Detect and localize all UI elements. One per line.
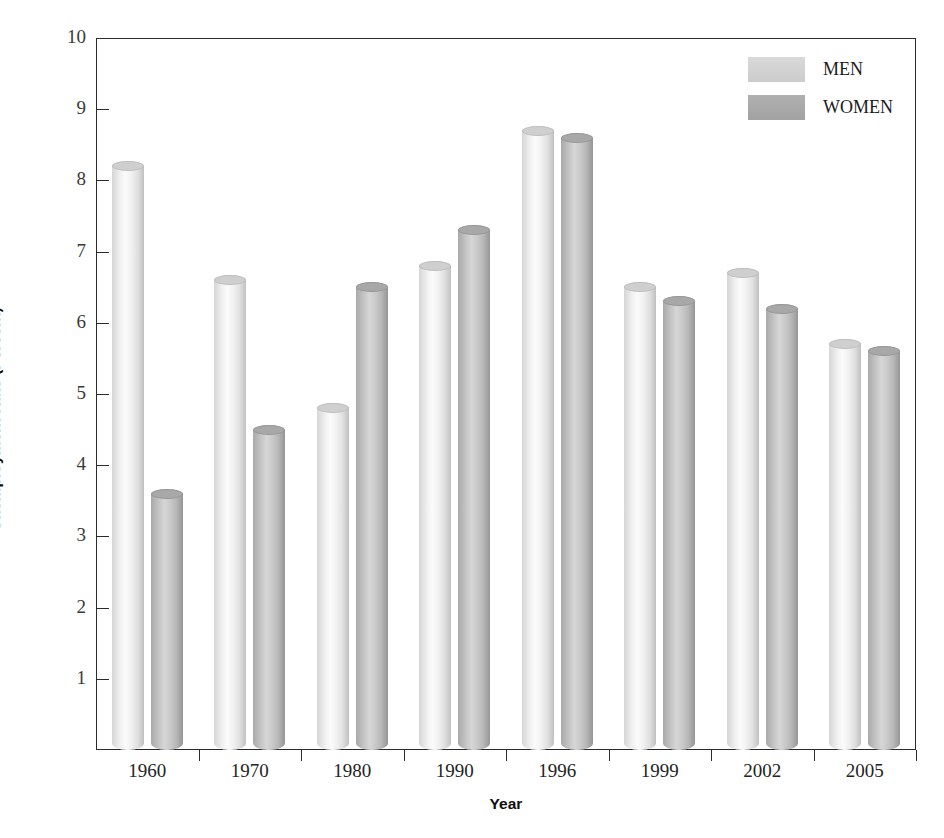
bar-body — [522, 131, 554, 750]
bar-men-1960 — [112, 166, 144, 750]
bar-body — [624, 287, 656, 750]
bar-women-1999 — [663, 301, 695, 750]
bar-women-1990 — [458, 230, 490, 750]
bar-body — [663, 301, 695, 750]
legend-label-men: MEN — [823, 59, 863, 80]
bar-body — [727, 273, 759, 750]
y-axis-tick-label: 4 — [0, 453, 86, 475]
bar-top-ellipse — [727, 268, 759, 278]
y-axis-tick — [96, 608, 109, 609]
y-axis-title-label: Unemployment Rate (Percent) — [0, 307, 4, 531]
y-axis-tick-label: 5 — [0, 382, 86, 404]
bar-women-1960 — [151, 494, 183, 750]
bar-body — [151, 494, 183, 750]
bar-women-1970 — [253, 430, 285, 750]
x-axis-title: Year — [96, 795, 916, 813]
bar-body — [766, 309, 798, 750]
bar-men-1999 — [624, 287, 656, 750]
y-axis-tick-label: 6 — [0, 311, 86, 333]
y-axis-tick — [96, 252, 109, 253]
bar-body — [356, 287, 388, 750]
y-axis-title: Unemployment Rate (Percent) — [34, 0, 68, 838]
bar-women-2002 — [766, 309, 798, 750]
y-axis-tick — [96, 679, 109, 680]
bar-men-2002 — [727, 273, 759, 750]
legend-item-women: WOMEN — [748, 90, 908, 124]
y-axis-tick-label: 8 — [0, 168, 86, 190]
bar-body — [829, 344, 861, 750]
bar-body — [112, 166, 144, 750]
y-axis-tick-label: 10 — [0, 26, 86, 48]
bar-body — [868, 351, 900, 750]
bar-top-ellipse — [253, 425, 285, 435]
y-axis-tick — [96, 109, 109, 110]
bar-body — [317, 408, 349, 750]
legend-item-men: MEN — [748, 52, 908, 86]
bar-body — [419, 266, 451, 750]
unemployment-bar-chart: Unemployment Rate (Percent) 12345678910 … — [0, 0, 944, 838]
bar-top-ellipse — [522, 126, 554, 136]
bar-men-2005 — [829, 344, 861, 750]
bar-top-ellipse — [766, 304, 798, 314]
y-axis-tick-label: 2 — [0, 596, 86, 618]
y-axis-tick — [96, 536, 109, 537]
bar-top-ellipse — [151, 489, 183, 499]
bar-top-ellipse — [561, 133, 593, 143]
legend-swatch-women-icon — [748, 95, 805, 120]
bar-men-1990 — [419, 266, 451, 750]
bar-men-1970 — [214, 280, 246, 750]
bar-body — [561, 138, 593, 750]
y-axis-tick-label: 3 — [0, 524, 86, 546]
y-axis-tick — [96, 394, 109, 395]
bar-body — [458, 230, 490, 750]
bar-men-1980 — [317, 408, 349, 750]
bar-men-1996 — [522, 131, 554, 750]
bar-women-1996 — [561, 138, 593, 750]
bar-body — [253, 430, 285, 750]
legend-swatch-men-icon — [748, 57, 805, 82]
bar-women-2005 — [868, 351, 900, 750]
y-axis-tick — [96, 180, 109, 181]
chart-legend: MEN WOMEN — [748, 52, 908, 128]
y-axis-tick — [96, 465, 109, 466]
x-axis-tick-label: 2005 — [805, 760, 925, 782]
y-axis-tick-label: 7 — [0, 240, 86, 262]
y-axis-tick-label: 9 — [0, 97, 86, 119]
bar-women-1980 — [356, 287, 388, 750]
bar-top-ellipse — [419, 261, 451, 271]
y-axis-tick — [96, 323, 109, 324]
y-axis-tick-label: 1 — [0, 667, 86, 689]
legend-label-women: WOMEN — [823, 97, 893, 118]
bar-body — [214, 280, 246, 750]
